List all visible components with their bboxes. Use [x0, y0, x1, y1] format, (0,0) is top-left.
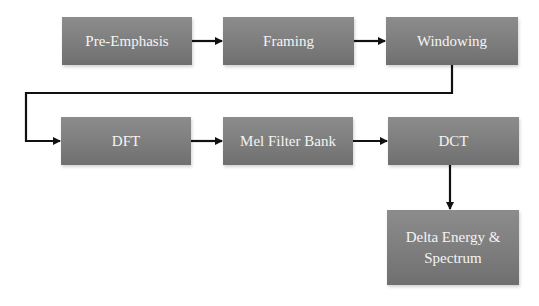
node-label-line1: Delta Energy & — [406, 227, 501, 247]
node-label: DFT — [112, 131, 140, 151]
node-pre-emphasis: Pre-Emphasis — [62, 17, 192, 65]
node-label-line2: Spectrum — [424, 248, 482, 268]
node-dct: DCT — [388, 117, 519, 165]
node-delta-energy-spectrum: Delta Energy & Spectrum — [387, 210, 519, 285]
node-label: DCT — [439, 131, 469, 151]
node-label: Pre-Emphasis — [85, 31, 168, 51]
node-windowing: Windowing — [386, 17, 518, 65]
node-label: Framing — [263, 31, 314, 51]
node-dft: DFT — [61, 117, 191, 165]
node-mel-filter-bank: Mel Filter Bank — [223, 117, 353, 165]
node-framing: Framing — [223, 17, 354, 65]
node-label: Mel Filter Bank — [240, 131, 336, 151]
node-label: Windowing — [417, 31, 487, 51]
